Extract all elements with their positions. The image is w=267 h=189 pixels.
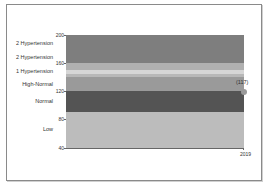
band-label-1-hypertension: 1 Hypertension (0, 68, 53, 74)
band-label-high-normal: High-Normal (0, 81, 53, 87)
y-tick-160: 160 (50, 60, 64, 66)
band-stage2-hypertension (66, 35, 244, 63)
y-tickmark (64, 119, 66, 120)
y-tickmark (64, 148, 66, 149)
y-tick-80: 80 (50, 116, 64, 122)
y-tick-120: 120 (50, 88, 64, 94)
plot-area (66, 35, 244, 148)
band-label-2-hypertension: 2 Hypertension (0, 54, 53, 60)
x-axis (66, 148, 244, 149)
data-point-label: (117) (236, 79, 248, 85)
y-tickmark (64, 63, 66, 64)
y-tick-200: 200 (50, 32, 64, 38)
data-point[interactable] (241, 89, 247, 95)
band-high-normal (66, 77, 244, 91)
band-stage2-hypertension-lower (66, 63, 244, 70)
y-tick-40: 40 (50, 145, 64, 151)
x-tick-label-2019: 2019 (240, 151, 251, 157)
band-label-normal: Normal (0, 98, 53, 104)
band-label-2-hypertension: 2 Hypertension (0, 40, 53, 46)
band-low (66, 112, 244, 148)
x-tick (243, 148, 244, 150)
y-tickmark (64, 91, 66, 92)
y-tickmark (64, 35, 66, 36)
band-label-low: Low (0, 126, 53, 132)
band-normal (66, 91, 244, 112)
